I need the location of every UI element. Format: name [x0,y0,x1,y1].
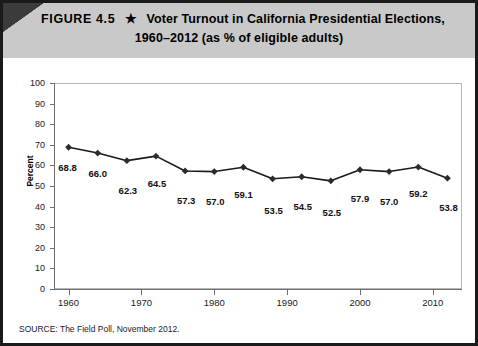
chart-area: Percent 10090807060504030201001960197019… [3,58,475,343]
data-point-marker [357,166,364,173]
data-point-marker [444,175,451,182]
data-point-marker [415,164,422,171]
data-point-marker [182,168,189,175]
figure-header: FIGURE 4.5 ★ Voter Turnout in California… [3,9,475,48]
data-point-marker [153,153,160,160]
source-note: SOURCE: The Field Poll, November 2012. [19,324,179,334]
data-point-marker [298,173,305,180]
figure-number: FIGURE 4.5 [41,12,115,26]
data-point-marker [65,144,72,151]
data-point-label: 59.2 [398,188,438,199]
data-point-marker [240,164,247,171]
data-point-marker [386,168,393,175]
data-point-marker [211,168,218,175]
data-point-label: 64.5 [137,178,177,189]
star-icon: ★ [119,9,143,28]
data-point-marker [94,150,101,157]
data-point-marker [123,157,130,164]
figure-header-line-1: FIGURE 4.5 ★ Voter Turnout in California… [3,9,475,29]
data-point-label: 59.1 [223,189,263,200]
data-point-label: 66.0 [78,168,118,179]
data-point-marker [327,177,334,184]
data-point-label: 52.5 [312,207,352,218]
figure-container: FIGURE 4.5 ★ Voter Turnout in California… [0,0,478,346]
data-point-label: 53.8 [428,202,468,213]
figure-title-line-1: Voter Turnout in California Presidential… [146,12,444,26]
figure-title-line-2: 1960–2012 (as % of eligible adults) [3,29,475,48]
data-point-marker [269,175,276,182]
